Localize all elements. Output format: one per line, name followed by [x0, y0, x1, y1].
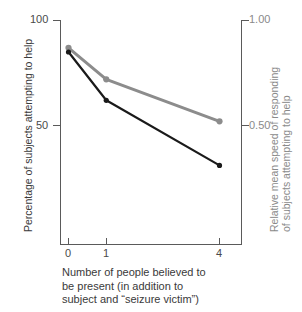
- x-axis-label-line1: Number of people believed to: [62, 266, 262, 280]
- data-point: [66, 49, 71, 54]
- data-point: [103, 76, 109, 82]
- y-axis-label-right-line2: of subjects attempting to help: [280, 95, 292, 232]
- y-axis-label-left: Percentage of subjects attempting to hel…: [22, 39, 34, 232]
- data-point: [216, 118, 222, 124]
- y-axis-label-right-line1: Relative mean speed of responding: [268, 67, 280, 232]
- data-point: [217, 163, 222, 168]
- x-axis-label-line3: subject and “seizure victim”): [62, 293, 262, 307]
- x-tick-label-4: 4: [209, 248, 229, 259]
- data-point: [104, 98, 109, 103]
- x-axis-label-line2: be present (in addition to: [62, 280, 262, 294]
- series-line-relative-speed: [69, 48, 220, 122]
- y-left-tick-label-50: 50: [36, 120, 48, 131]
- x-tick-label-1: 1: [96, 248, 116, 259]
- y-right-tick-label-100: 1.00: [249, 14, 270, 25]
- y-left-tick-label-100: 100: [30, 14, 48, 25]
- x-tick-label-0: 0: [58, 248, 78, 259]
- chart-figure: 100 50 1.00 0.50 0 1 4 Percentage of sub…: [0, 0, 302, 312]
- x-axis-label: Number of people believed to be present …: [62, 266, 262, 307]
- series-line-percentage-helping: [69, 52, 220, 165]
- y-axis-label-right: Relative mean speed of responding of sub…: [268, 67, 280, 232]
- series-markers-percentage-helping: [66, 49, 222, 168]
